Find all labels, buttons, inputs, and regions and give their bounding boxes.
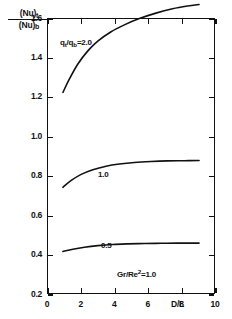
x-tick-bot [215,288,216,293]
y-tick-right [209,294,214,295]
annotation-qt-qb-ratio: qt/qb=2.0 [60,38,92,47]
curve-series-1p0 [63,160,199,187]
y-tick-left [48,216,53,217]
y-tick-left [48,255,53,256]
curve-label-1p0: 1.0 [98,170,109,179]
curves-layer [48,19,214,293]
x-axis-title: D/L [171,299,184,309]
y-tick-label: 0.8 [2,170,42,180]
y-tick-right [209,97,214,98]
x-tick-top [182,19,183,24]
x-tick-bot [81,288,82,293]
x-tick-label: 2 [69,299,93,309]
annotation-gr-re-value: =1.0 [141,270,156,279]
y-tick-right [209,18,214,19]
curve-series-2p0 [63,5,199,93]
x-tick-top [81,19,82,24]
y-tick-right [209,137,214,138]
x-tick-label: 4 [102,299,126,309]
x-tick-label: 0 [35,299,59,309]
y-tick-left [48,18,53,19]
y-tick-label: 1.6 [2,13,42,23]
y-tick-label: 0.2 [2,289,42,299]
y-tick-left [48,176,53,177]
annotation-qb-subscript: b [73,41,77,48]
y-tick-label: 1.4 [2,52,42,62]
y-tick-label: 1.0 [2,131,42,141]
y-tick-left [48,137,53,138]
y-tick-left [48,294,53,295]
y-tick-label: 1.2 [2,91,42,101]
x-tick-top [148,19,149,24]
y-tick-left [48,58,53,59]
y-tick-right [209,216,214,217]
annotation-gr-re-prefix: Gr/Re [117,270,138,279]
x-tick-bot [115,288,116,293]
x-tick-label: 10 [203,299,227,309]
y-axis-title-denominator-subscript: b [35,23,39,30]
annotation-qt-subscript: t [65,41,67,48]
annotation-re-superscript: 2 [138,268,141,275]
y-tick-right [209,58,214,59]
y-tick-label: 0.4 [2,249,42,259]
curve-label-0p5: 0.5 [101,241,112,250]
x-tick-bot [182,288,183,293]
x-tick-top [215,19,216,24]
x-tick-top [47,19,48,24]
x-tick-bot [47,288,48,293]
x-tick-top [115,19,116,24]
x-tick-label: 6 [136,299,160,309]
y-tick-label: 0.6 [2,210,42,220]
y-tick-right [209,255,214,256]
plot-frame [47,18,215,294]
annotation-gr-re-squared: Gr/Re2=1.0 [117,270,156,279]
y-tick-right [209,176,214,177]
annotation-qt-prefix: q [60,38,65,47]
x-tick-bot [148,288,149,293]
y-tick-left [48,97,53,98]
figure-chart: (Nu)t (Nu)b 0.20.40.60.81.01.21.41.60246… [0,0,232,319]
curve-series-0p5 [63,243,199,251]
annotation-qt-qb-value: =2.0 [77,38,92,47]
